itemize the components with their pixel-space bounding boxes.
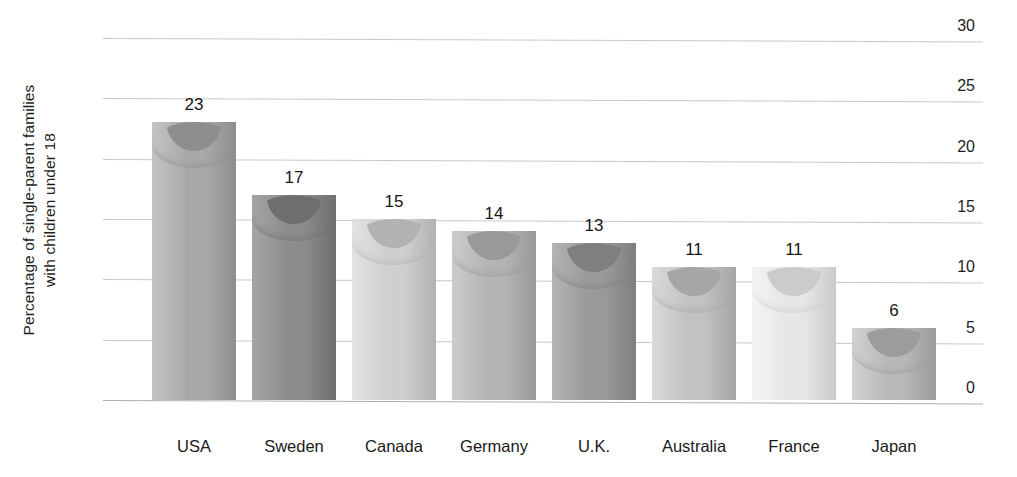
bar-usa: 23 (152, 122, 236, 400)
x-category-label-germany: Germany (452, 438, 536, 455)
y-axis-title: Percentage of single-parent families wit… (0, 0, 78, 420)
y-tick-label-30: 30 (957, 18, 975, 34)
bar-body (252, 195, 336, 400)
x-category-label-japan: Japan (852, 438, 936, 455)
y-axis-title-line-2: with children under 18 (39, 85, 60, 336)
bar-japan: 6 (852, 328, 936, 400)
bar-body (652, 267, 736, 400)
bar-germany: 14 (452, 231, 536, 400)
bar-body (352, 219, 436, 400)
bar-france: 11 (752, 267, 836, 400)
bar-value-label: 6 (852, 302, 936, 319)
gridline-0 (103, 400, 983, 404)
x-category-label-france: France (752, 438, 836, 455)
y-axis-title-line-1: Percentage of single-parent families (20, 85, 37, 336)
bar-body (152, 122, 236, 400)
x-category-label-australia: Australia (652, 438, 736, 455)
bar-value-label: 11 (652, 241, 736, 258)
y-tick-label-0: 0 (966, 380, 975, 396)
y-tick-label-15: 15 (957, 199, 975, 215)
y-tick-label-25: 25 (957, 78, 975, 94)
bar-sweden: 17 (252, 195, 336, 400)
x-category-label-sweden: Sweden (252, 438, 336, 455)
bar-u-k: 13 (552, 243, 636, 400)
y-tick-label-20: 20 (957, 139, 975, 155)
bar-australia: 11 (652, 267, 736, 400)
bar-value-label: 15 (352, 193, 436, 210)
bar-body (752, 267, 836, 400)
gridline-30 (103, 38, 983, 42)
bar-value-label: 17 (252, 169, 336, 186)
bar-body (852, 328, 936, 400)
y-tick-label-5: 5 (966, 320, 975, 336)
bar-value-label: 13 (552, 217, 636, 234)
y-tick-label-10: 10 (957, 259, 975, 275)
bar-value-label: 11 (752, 241, 836, 258)
x-category-label-canada: Canada (352, 438, 436, 455)
x-category-label-usa: USA (152, 438, 236, 455)
x-category-label-u-k: U.K. (552, 438, 636, 455)
bar-body (552, 243, 636, 400)
bar-canada: 15 (352, 219, 436, 400)
plot-area: 05101520253023USA17Sweden15Canada14Germa… (103, 20, 983, 410)
bar-chart: Percentage of single-parent families wit… (0, 0, 1017, 477)
bar-value-label: 23 (152, 96, 236, 113)
bar-value-label: 14 (452, 205, 536, 222)
bar-body (452, 231, 536, 400)
